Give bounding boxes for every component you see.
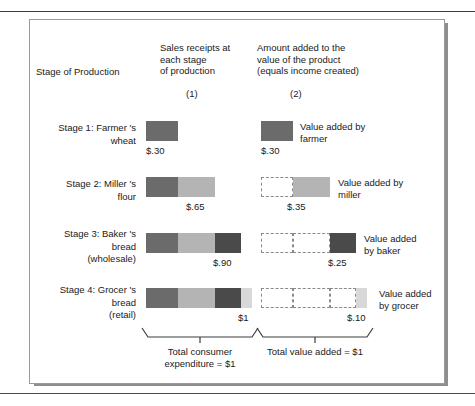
- receipts-bar-stage-3: [146, 233, 241, 253]
- column-1-number: (1): [186, 88, 198, 99]
- bar-segment-baker: [330, 233, 356, 253]
- bar-segment-baker: [215, 233, 241, 253]
- receipts-amount-stage-2: $.65: [186, 201, 205, 212]
- row-label-stage-1: Stage 1: Farmer 's wheat: [34, 122, 136, 147]
- bar-segment-placeholder: [261, 288, 293, 308]
- value-added-bar-stage-1: [261, 121, 293, 141]
- receipts-bar-stage-2: [146, 177, 215, 197]
- bar-segment-miller: [178, 233, 215, 253]
- bar-segment-grocer: [241, 288, 252, 308]
- bar-segment-placeholder: [261, 177, 293, 197]
- bar-segment-farmer: [261, 121, 293, 141]
- bar-segment-placeholder: [330, 288, 356, 308]
- header-stage-of-production: Stage of Production: [36, 66, 119, 78]
- bar-segment-grocer: [356, 288, 367, 308]
- row-label-stage-3: Stage 3: Baker 's bread (wholesale): [34, 228, 136, 266]
- header-column-2: Amount added to the value of the product…: [257, 42, 359, 77]
- legend-stage-3: Value added by baker: [364, 233, 417, 256]
- bar-segment-farmer: [146, 288, 178, 308]
- value-added-bar-stage-4: [261, 288, 367, 308]
- value-added-bar-stage-3: [261, 233, 356, 253]
- bar-segment-farmer: [146, 121, 178, 141]
- bracket-total-expenditure: [140, 326, 260, 344]
- value-added-amount-stage-2: $.35: [287, 201, 306, 212]
- bar-segment-miller: [293, 177, 330, 197]
- legend-stage-2: Value added by miller: [338, 177, 403, 200]
- value-added-figure: Stage of Production Sales receipts at ea…: [0, 0, 475, 406]
- bar-segment-miller: [178, 288, 215, 308]
- value-added-amount-stage-1: $.30: [261, 145, 280, 156]
- top-divider-rule: [0, 11, 475, 12]
- value-added-amount-stage-3: $.25: [328, 257, 347, 268]
- row-label-stage-2: Stage 2: Miller 's flour: [34, 178, 136, 203]
- bar-segment-farmer: [146, 233, 178, 253]
- bar-segment-placeholder: [293, 233, 330, 253]
- legend-stage-4: Value added by grocer: [379, 288, 432, 311]
- column-2-number: (2): [290, 88, 302, 99]
- header-column-1: Sales receipts at each stage of producti…: [160, 42, 230, 77]
- receipts-amount-stage-1: $.30: [146, 145, 165, 156]
- value-added-amount-stage-4: $.10: [347, 312, 366, 323]
- receipts-amount-stage-3: $.90: [213, 257, 232, 268]
- value-added-bar-stage-2: [261, 177, 330, 197]
- summary-total-value-added: Total value added = $1: [248, 346, 382, 358]
- bar-segment-placeholder: [293, 288, 330, 308]
- legend-stage-1: Value added by farmer: [300, 121, 365, 144]
- bar-segment-placeholder: [261, 233, 293, 253]
- receipts-amount-stage-4: $1: [238, 312, 249, 323]
- bottom-divider-rule: [0, 393, 475, 394]
- bar-segment-miller: [178, 177, 215, 197]
- row-label-stage-4: Stage 4: Grocer 's bread (retail): [34, 284, 136, 322]
- bracket-total-value-added: [255, 326, 375, 344]
- bar-segment-farmer: [146, 177, 178, 197]
- summary-total-expenditure: Total consumer expenditure = $1: [140, 346, 260, 370]
- bar-segment-baker: [215, 288, 241, 308]
- receipts-bar-stage-1: [146, 121, 178, 141]
- receipts-bar-stage-4: [146, 288, 252, 308]
